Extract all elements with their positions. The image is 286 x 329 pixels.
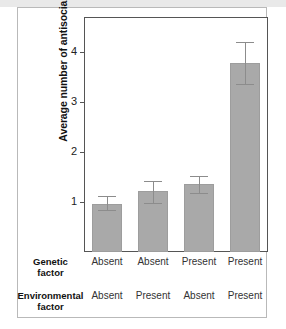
top-strip bbox=[0, 0, 286, 7]
environmental-factor-value-3: Absent bbox=[176, 290, 222, 302]
bar-3 bbox=[184, 184, 214, 253]
environmental-factor-value-1: Absent bbox=[84, 290, 130, 302]
y-tick-label: 4 bbox=[71, 45, 77, 57]
error-bar-cap-bottom bbox=[190, 193, 208, 194]
error-bar-stem bbox=[245, 42, 246, 85]
error-bar-cap-bottom bbox=[98, 210, 116, 211]
genetic-factor-title-line1: Genetic bbox=[17, 256, 84, 267]
genetic-factor-cells: AbsentAbsentPresentPresent bbox=[84, 256, 268, 286]
y-tick-label: 3 bbox=[71, 95, 77, 107]
error-bar-cap-top bbox=[144, 181, 162, 182]
environmental-factor-row: Environmental factor AbsentPresentAbsent… bbox=[17, 290, 267, 320]
bar-4 bbox=[230, 63, 260, 252]
error-bar-cap-bottom bbox=[144, 203, 162, 204]
genetic-factor-value-1: Absent bbox=[84, 256, 130, 268]
y-tick-label: 1 bbox=[71, 195, 77, 207]
genetic-factor-title: Genetic factor bbox=[17, 256, 84, 278]
figure-container: Average number of antisocial behaviors 1… bbox=[0, 0, 286, 329]
bar-1 bbox=[92, 204, 122, 252]
environmental-factor-cells: AbsentPresentAbsentPresent bbox=[84, 290, 268, 320]
environmental-factor-value-2: Present bbox=[130, 290, 176, 302]
y-tick-label: 2 bbox=[71, 145, 77, 157]
error-bar-stem bbox=[153, 181, 154, 205]
error-bar-cap-top bbox=[236, 42, 254, 43]
error-bar-stem bbox=[199, 176, 200, 194]
y-tick-3: 3 bbox=[0, 102, 84, 103]
genetic-factor-value-2: Absent bbox=[130, 256, 176, 268]
genetic-factor-title-line2: factor bbox=[17, 267, 84, 278]
y-tick-4: 4 bbox=[0, 52, 84, 53]
y-tick-2: 2 bbox=[0, 152, 84, 153]
environmental-factor-value-4: Present bbox=[222, 290, 268, 302]
y-tick-1: 1 bbox=[0, 202, 84, 203]
environmental-factor-title-line1: Environmental bbox=[17, 290, 84, 301]
y-axis-label: Average number of antisocial behaviors bbox=[57, 0, 69, 149]
bars-layer bbox=[84, 17, 268, 252]
genetic-factor-value-4: Present bbox=[222, 256, 268, 268]
genetic-factor-value-3: Present bbox=[176, 256, 222, 268]
environmental-factor-title: Environmental factor bbox=[17, 290, 84, 312]
genetic-factor-row: Genetic factor AbsentAbsentPresentPresen… bbox=[17, 256, 267, 286]
error-bar-cap-top bbox=[190, 176, 208, 177]
error-bar-cap-bottom bbox=[236, 84, 254, 85]
environmental-factor-title-line2: factor bbox=[17, 301, 84, 312]
error-bar-cap-top bbox=[98, 196, 116, 197]
error-bar-stem bbox=[107, 196, 108, 212]
